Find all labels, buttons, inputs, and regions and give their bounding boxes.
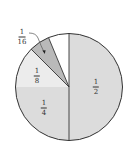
label-eighth: 18 — [34, 68, 40, 85]
label-quarter: 14 — [41, 100, 47, 117]
label-sixteenth: 116 — [18, 29, 27, 46]
label-half: 12 — [93, 79, 99, 96]
pie-chart — [0, 0, 124, 154]
pie-slices — [16, 34, 123, 141]
